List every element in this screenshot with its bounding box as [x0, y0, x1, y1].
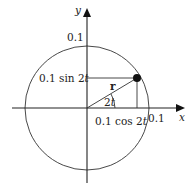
x-axis-label: x: [179, 111, 185, 123]
particle-dot: [133, 74, 141, 82]
sin-projection-label: 0.1 sin 2t: [39, 72, 90, 84]
angle-label: 2t: [104, 96, 116, 108]
cos-projection-label: 0.1 cos 2t: [95, 115, 148, 127]
x-radius-label: 0.1: [148, 112, 165, 124]
circular-motion-diagram: y x 0.1 0.1 0.1 sin 2t 0.1 cos 2t r 2t: [0, 0, 191, 191]
y-axis-label: y: [74, 4, 82, 16]
vector-label: r: [110, 80, 116, 92]
y-radius-label: 0.1: [67, 31, 84, 43]
y-axis-arrow-icon: [83, 8, 91, 17]
